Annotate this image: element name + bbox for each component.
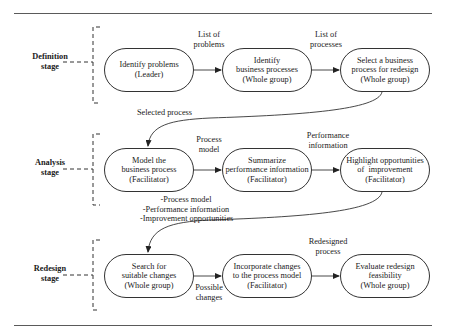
node-text: (Facilitator) bbox=[129, 175, 169, 185]
definition-bracket bbox=[93, 27, 100, 103]
node-text: Search for bbox=[132, 262, 166, 272]
flow-label-line: Possible bbox=[192, 283, 226, 293]
flow-label-line: processes bbox=[306, 40, 346, 50]
flow-label-performance-information: Performance information bbox=[305, 131, 351, 150]
node-text: Identify bbox=[254, 56, 280, 66]
node-text: (Leader) bbox=[135, 70, 164, 80]
flow-label-line: changes bbox=[192, 293, 226, 303]
flow-label-process-model: Process model bbox=[192, 135, 226, 154]
flow-label-line: model bbox=[192, 145, 226, 155]
node-text: (Whole group) bbox=[242, 75, 291, 85]
stage-label-definition: Definition stage bbox=[22, 52, 78, 71]
node-text: performance information bbox=[225, 165, 308, 175]
flow-label-list-of-problems: List of problems bbox=[190, 30, 228, 49]
redesign-bracket bbox=[93, 240, 100, 310]
transition-label-analysis-outputs: -Process model -Performance information … bbox=[140, 195, 232, 224]
stage-label-line: Definition bbox=[22, 52, 78, 62]
node-text: (Facilitator) bbox=[247, 281, 287, 291]
flow-label-redesigned-process: Redesigned process bbox=[305, 237, 351, 256]
node-text: Select a business bbox=[357, 56, 413, 66]
node-identify-business-processes: Identify business processes (Whole group… bbox=[222, 48, 312, 92]
node-text: feasibility bbox=[368, 271, 401, 281]
transition-label-line: -Process model bbox=[140, 195, 232, 205]
analysis-bracket bbox=[93, 134, 100, 205]
flow-label-line: List of bbox=[190, 30, 228, 40]
stage-label-analysis: Analysis stage bbox=[22, 158, 78, 177]
flow-label-line: List of bbox=[306, 30, 346, 40]
node-text: (Facilitator) bbox=[365, 175, 405, 185]
flow-label-line: Redesigned bbox=[305, 237, 351, 247]
node-text: Incorporate changes bbox=[233, 262, 300, 272]
node-text: Summarize bbox=[248, 156, 286, 166]
node-incorporate-changes: Incorporate changes to the process model… bbox=[222, 254, 312, 298]
node-highlight-opportunities: Highlight opportunities of improvement (… bbox=[340, 148, 430, 192]
flow-label-possible-changes: Possible changes bbox=[192, 283, 226, 302]
stage-label-line: stage bbox=[22, 62, 78, 72]
transition-label-selected-process: Selected process bbox=[137, 108, 192, 118]
node-text: (Whole group) bbox=[360, 75, 409, 85]
flow-label-line: information bbox=[305, 141, 351, 151]
node-text: (Facilitator) bbox=[247, 175, 287, 185]
node-model-business-process: Model the business process (Facilitator) bbox=[104, 148, 194, 192]
flow-label-line: Performance bbox=[305, 131, 351, 141]
node-text: Model the bbox=[132, 156, 166, 166]
node-text: Identify problems bbox=[119, 60, 178, 70]
flow-label-line: problems bbox=[190, 40, 228, 50]
flow-label-line: Process bbox=[192, 135, 226, 145]
node-text: Highlight opportunities bbox=[346, 156, 424, 166]
stage-label-line: stage bbox=[22, 168, 78, 178]
node-select-business-process: Select a business process for redesign (… bbox=[340, 48, 430, 92]
node-text: (Whole group) bbox=[124, 281, 173, 291]
transition-label-line: -Improvement opportunities bbox=[140, 214, 232, 224]
flow-label-list-of-processes: List of processes bbox=[306, 30, 346, 49]
node-text: (Whole group) bbox=[360, 281, 409, 291]
diagram-canvas: Definition stage Analysis stage Redesign… bbox=[0, 0, 450, 336]
node-text: business process bbox=[121, 165, 176, 175]
node-text: suitable changes bbox=[122, 271, 177, 281]
node-text: business processes bbox=[236, 65, 298, 75]
node-text: process for redesign bbox=[352, 65, 419, 75]
transition-label-line: -Performance information bbox=[140, 205, 232, 215]
stage-label-redesign: Redesign stage bbox=[22, 264, 78, 283]
stage-label-line: Redesign bbox=[22, 264, 78, 274]
stage-label-line: stage bbox=[22, 274, 78, 284]
node-search-suitable-changes: Search for suitable changes (Whole group… bbox=[104, 254, 194, 298]
flow-label-line: process bbox=[305, 247, 351, 257]
node-text: of improvement bbox=[357, 165, 412, 175]
node-evaluate-redesign: Evaluate redesign feasibility (Whole gro… bbox=[340, 254, 430, 298]
stage-label-line: Analysis bbox=[22, 158, 78, 168]
node-identify-problems: Identify problems (Leader) bbox=[104, 48, 194, 92]
node-summarize-performance: Summarize performance information (Facil… bbox=[222, 148, 312, 192]
node-text: Evaluate redesign bbox=[355, 262, 414, 272]
node-text: to the process model bbox=[233, 271, 301, 281]
